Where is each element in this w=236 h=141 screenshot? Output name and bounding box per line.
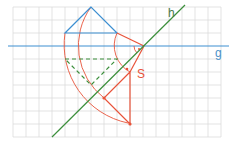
- line-h: [52, 5, 185, 137]
- label-g: g: [215, 46, 222, 60]
- vertex-markers: [102, 48, 140, 126]
- arc-inner: [114, 33, 130, 72]
- geometry-diagram: h g S: [0, 0, 236, 141]
- angle-arc: [134, 46, 137, 53]
- label-s: S: [137, 67, 145, 81]
- rotation-arcs: [64, 7, 137, 123]
- label-h: h: [168, 6, 175, 20]
